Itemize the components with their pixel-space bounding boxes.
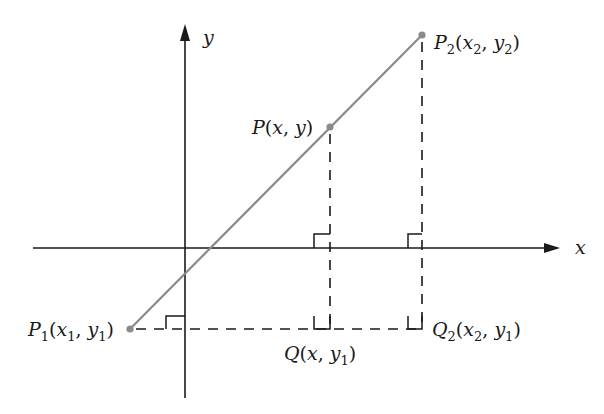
y-axis	[180, 24, 190, 398]
x-axis-label: x	[575, 236, 586, 258]
segment-p1-p2	[130, 35, 422, 329]
right-angle-icon	[314, 316, 330, 329]
coordinate-diagram: x y P2(x2, y2) P(x, y) P1(x1, y1) Q(x, y…	[0, 0, 604, 414]
x-axis-arrow-icon	[544, 243, 560, 253]
point-p	[326, 123, 333, 130]
right-angle-icon	[408, 234, 422, 248]
label-p: P(x, y)	[251, 116, 313, 138]
y-axis-arrow-icon	[180, 24, 190, 41]
point-p2	[418, 31, 425, 38]
x-axis	[33, 243, 560, 253]
right-angle-icon	[166, 316, 185, 329]
label-p2: P2(x2, y2)	[433, 31, 520, 57]
right-angle-icon	[408, 316, 422, 329]
point-p1	[126, 325, 133, 332]
label-p1: P1(x1, y1)	[27, 318, 114, 344]
y-axis-label: y	[202, 26, 214, 48]
label-q: Q(x, y1)	[284, 342, 356, 368]
dashed-lines	[136, 42, 422, 329]
label-q2: Q2(x2, y1)	[432, 318, 521, 344]
right-angle-icon	[314, 234, 330, 248]
